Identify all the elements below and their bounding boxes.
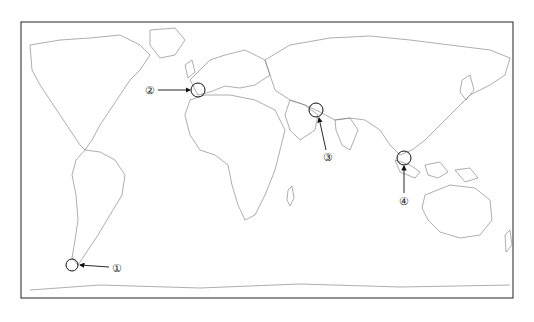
marker-label-3: ③ xyxy=(323,151,333,164)
world-map: ① ② ③ ④ xyxy=(0,0,534,322)
marker-label-4: ④ xyxy=(399,195,409,208)
map-frame xyxy=(21,22,513,298)
marker-label-1: ① xyxy=(112,262,122,275)
marker-label-2: ② xyxy=(145,84,155,97)
